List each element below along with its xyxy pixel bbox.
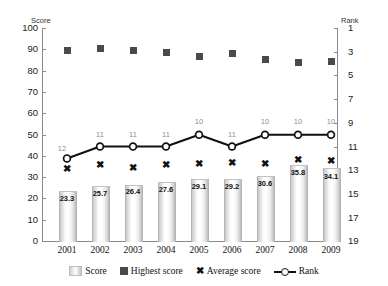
y2-tick-3: 3 (348, 46, 370, 57)
y2-tick-17: 17 (348, 212, 370, 223)
legend-label-highest-score: Highest score (131, 266, 183, 276)
y2-tick-1: 1 (348, 22, 370, 33)
chart-legend: Score Highest score ✖ Average score Rank (0, 262, 388, 280)
y2-tick-9: 9 (348, 117, 370, 128)
bar-label-2009: 34.1 (314, 172, 348, 181)
legend-item-average-score[interactable]: ✖ Average score (196, 266, 261, 276)
average-score-marker-2004: ✖ (160, 160, 172, 170)
x-label-2009: 2009 (311, 245, 351, 255)
y2-tick-11: 11 (348, 141, 370, 152)
highest-score-marker-2008 (295, 59, 302, 66)
y2-tickmark (334, 75, 338, 76)
y-tickmark (42, 113, 46, 114)
y-tickmark (42, 198, 46, 199)
y2-tickmark (334, 99, 338, 100)
y-tickmark (42, 177, 46, 178)
legend-label-score: Score (85, 266, 107, 276)
legend-item-score[interactable]: Score (69, 266, 107, 276)
y-tick-50: 50 (14, 129, 38, 140)
legend-item-rank[interactable]: Rank (274, 266, 319, 276)
highest-score-marker-2003 (130, 47, 137, 54)
y-tickmark (42, 28, 46, 29)
y2-tick-5: 5 (348, 69, 370, 80)
y-tickmark (42, 92, 46, 93)
legend-label-rank: Rank (299, 266, 319, 276)
rank-label-2009: 10 (319, 117, 343, 126)
highest-score-marker-2002 (97, 45, 104, 52)
highest-score-marker-2007 (262, 56, 269, 63)
rank-line-series (0, 0, 388, 286)
average-score-marker-2009: ✖ (325, 156, 337, 166)
y-tick-30: 30 (14, 171, 38, 182)
bar-label-2004: 27.6 (149, 185, 183, 194)
bar-label-2006: 29.2 (215, 182, 249, 191)
y2-tickmark (334, 147, 338, 148)
highest-score-marker-2005 (196, 53, 203, 60)
bar-swatch-icon (69, 266, 82, 276)
average-score-marker-2006: ✖ (226, 158, 238, 168)
y-tickmark (42, 49, 46, 50)
bar-label-2007: 30.6 (248, 179, 282, 188)
average-score-marker-2002: ✖ (94, 160, 106, 170)
highest-score-marker-2004 (163, 49, 170, 56)
highest-score-marker-2001 (64, 47, 71, 54)
x-marker-icon: ✖ (196, 267, 204, 275)
bar-label-2003: 26.4 (116, 187, 150, 196)
y-tick-80: 80 (14, 65, 38, 76)
rank-label-2006: 11 (220, 130, 244, 139)
y-tick-40: 40 (14, 150, 38, 161)
y2-tick-13: 13 (348, 164, 370, 175)
y-tick-70: 70 (14, 86, 38, 97)
bar-label-2008: 35.8 (281, 168, 315, 177)
average-score-marker-2008: ✖ (292, 155, 304, 165)
y2-tickmark (334, 28, 338, 29)
rank-label-2003: 11 (121, 130, 145, 139)
y-tick-90: 90 (14, 43, 38, 54)
y2-tick-19: 19 (348, 235, 370, 246)
rank-label-2002: 11 (88, 130, 112, 139)
square-marker-icon (120, 267, 128, 275)
y-tick-10: 10 (14, 214, 38, 225)
bar-label-2001: 23.3 (50, 194, 84, 203)
bar-label-2005: 29.1 (182, 182, 216, 191)
average-score-marker-2005: ✖ (193, 159, 205, 169)
y-tick-20: 20 (14, 192, 38, 203)
highest-score-marker-2009 (328, 58, 335, 65)
y-tickmark (42, 71, 46, 72)
average-score-marker-2003: ✖ (127, 163, 139, 173)
y2-tickmark (334, 52, 338, 53)
legend-item-highest-score[interactable]: Highest score (120, 266, 183, 276)
y-tick-0: 0 (14, 235, 38, 246)
rank-label-2007: 10 (253, 117, 277, 126)
rank-label-2005: 10 (187, 117, 211, 126)
legend-label-average-score: Average score (207, 266, 261, 276)
y-tick-60: 60 (14, 107, 38, 118)
chart-container: Score Rank 100 90 80 70 60 50 40 30 20 1… (0, 0, 388, 286)
rank-label-2008: 10 (286, 117, 310, 126)
y2-tick-15: 15 (348, 188, 370, 199)
y2-tick-7: 7 (348, 93, 370, 104)
line-circle-marker-icon (274, 267, 296, 275)
highest-score-marker-2006 (229, 50, 236, 57)
bar-label-2002: 25.7 (83, 189, 117, 198)
y-tickmark (42, 220, 46, 221)
y-tickmark (42, 135, 46, 136)
average-score-marker-2007: ✖ (259, 159, 271, 169)
rank-label-2004: 11 (154, 130, 178, 139)
rank-label-2001: 12 (50, 144, 74, 153)
y-tick-100: 100 (14, 22, 38, 33)
average-score-marker-2001: ✖ (61, 164, 73, 174)
y-tickmark (42, 156, 46, 157)
